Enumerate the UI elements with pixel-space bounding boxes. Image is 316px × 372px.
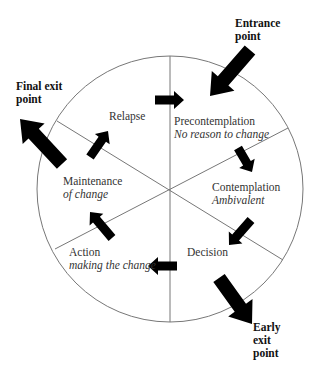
stage-precontemplation: Precontemplation No reason to change xyxy=(174,115,269,141)
stage-contemplation: Contemplation Ambivalent xyxy=(212,181,280,207)
stage-decision: Decision xyxy=(187,246,228,259)
stage-subtitle: making the change xyxy=(69,259,156,272)
precontemplation-to-contemplation-arrow-icon xyxy=(234,146,255,172)
stage-name: Maintenance xyxy=(63,175,122,188)
stage-name: Precontemplation xyxy=(174,115,269,128)
early-exit-point-label: Early exit point xyxy=(253,321,280,360)
stages-of-change-diagram: Precontemplation No reason to change Con… xyxy=(0,0,316,372)
early-exit-line1: Early xyxy=(253,321,280,334)
entrance-arrow-icon xyxy=(210,45,255,96)
stage-name: Action xyxy=(69,246,156,259)
stage-subtitle: Ambivalent xyxy=(212,194,280,207)
final-exit-line2: point xyxy=(16,93,62,106)
stage-name: Relapse xyxy=(109,110,145,123)
contemplation-to-decision-arrow-icon xyxy=(229,217,255,245)
stage-name: Decision xyxy=(187,246,228,259)
stage-subtitle: No reason to change xyxy=(174,128,269,141)
final-exit-point-label: Final exit point xyxy=(16,80,62,106)
maintenance-to-relapse-arrow-icon xyxy=(86,131,109,160)
final-exit-arrow-icon xyxy=(20,119,67,169)
entrance-point-label: Entrance point xyxy=(235,17,280,43)
early-exit-arrow-icon xyxy=(213,274,252,324)
action-to-maintenance-arrow-icon xyxy=(90,212,116,241)
early-exit-line3: point xyxy=(253,347,280,360)
stage-action: Action making the change xyxy=(69,246,156,272)
entrance-line2: point xyxy=(235,30,280,43)
stage-relapse: Relapse xyxy=(109,110,145,123)
stage-subtitle: of change xyxy=(63,188,122,201)
final-exit-line1: Final exit xyxy=(16,80,62,93)
stage-name: Contemplation xyxy=(212,181,280,194)
stage-maintenance: Maintenance of change xyxy=(63,175,122,201)
entrance-line1: Entrance xyxy=(235,17,280,30)
early-exit-line2: exit xyxy=(253,334,280,347)
